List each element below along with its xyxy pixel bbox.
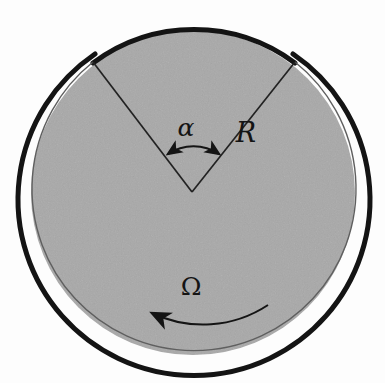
figure-root: α R Ω bbox=[0, 0, 385, 383]
alpha-label: α bbox=[178, 113, 195, 142]
disc-diagram-svg: α R Ω bbox=[0, 0, 385, 383]
radius-label: R bbox=[235, 117, 256, 148]
omega-label: Ω bbox=[181, 272, 202, 301]
disc-body bbox=[31, 31, 355, 355]
